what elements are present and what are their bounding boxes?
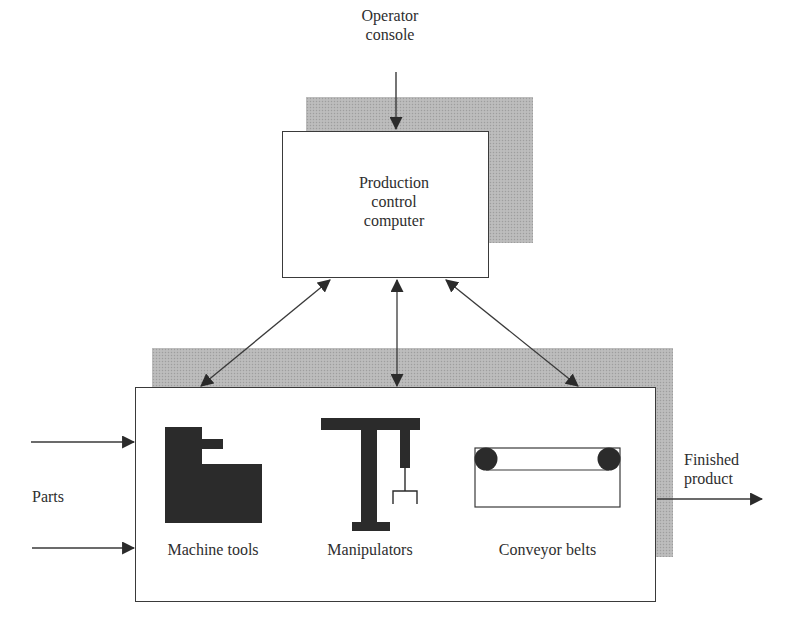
- parts-label: Parts: [32, 487, 64, 506]
- conveyor-belts-label: Conveyor belts: [480, 540, 615, 559]
- machine-tool-icon: [160, 424, 270, 529]
- operator-console-label-line2: console: [340, 25, 440, 44]
- operator-console-label: Operator console: [340, 6, 440, 44]
- control-computer-label-line1: Production: [334, 173, 454, 192]
- control-computer-label-line3: computer: [334, 211, 454, 230]
- conveyor-belt-icon: [470, 440, 630, 510]
- machine-tools-label: Machine tools: [148, 540, 278, 559]
- manipulators-label: Manipulators: [310, 540, 430, 559]
- control-computer-label: Production control computer: [334, 173, 454, 230]
- finished-product-label: Finished product: [684, 450, 739, 488]
- operator-console-label-line1: Operator: [340, 6, 440, 25]
- control-computer-label-line2: control: [334, 192, 454, 211]
- finished-product-label-line1: Finished: [684, 450, 739, 469]
- manipulator-icon: [316, 412, 426, 537]
- finished-product-label-line2: product: [684, 469, 739, 488]
